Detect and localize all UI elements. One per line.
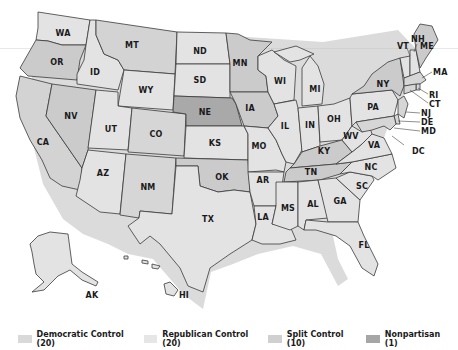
map-legend: Democratic Control (20) Republican Contr… xyxy=(18,330,458,348)
label-md: MD xyxy=(421,127,436,136)
legend-label: Nonpartisan (1) xyxy=(385,330,449,348)
legend-item-split: Split Control (10) xyxy=(268,330,357,348)
label-in: IN xyxy=(305,121,315,130)
leader-md xyxy=(394,128,420,131)
label-me: ME xyxy=(420,42,434,51)
label-ks: KS xyxy=(209,139,221,148)
label-mt: MT xyxy=(125,41,139,50)
label-ga: GA xyxy=(333,197,346,206)
us-map: WA OR CA ID NV MT WY UT CO AZ NM ND SD N… xyxy=(0,0,458,315)
leader-ma xyxy=(422,72,432,78)
leader-ri xyxy=(418,88,428,94)
label-ne: NE xyxy=(199,108,212,117)
label-tx: TX xyxy=(202,215,214,224)
label-sc: SC xyxy=(356,182,368,191)
label-ny: NY xyxy=(377,80,390,89)
label-nc: NC xyxy=(365,163,378,172)
legend-label: Split Control (10) xyxy=(287,330,357,348)
label-ok: OK xyxy=(215,173,228,182)
legend-item-democratic: Democratic Control (20) xyxy=(18,330,135,348)
us-map-svg xyxy=(0,0,458,315)
label-oh: OH xyxy=(327,115,341,124)
label-nv: NV xyxy=(64,112,77,121)
label-nm: NM xyxy=(140,183,155,192)
label-al: AL xyxy=(307,200,319,209)
label-sd: SD xyxy=(194,76,207,85)
label-il: IL xyxy=(281,122,289,131)
republican-swatch xyxy=(144,335,158,343)
democratic-swatch xyxy=(18,335,32,343)
state-CT[interactable] xyxy=(404,84,416,94)
label-fl: FL xyxy=(359,241,370,250)
legend-label: Republican Control (20) xyxy=(162,330,259,348)
state-AK[interactable] xyxy=(30,232,98,292)
legend-item-nonpartisan: Nonpartisan (1) xyxy=(366,330,449,348)
label-az: AZ xyxy=(97,169,109,178)
nonpartisan-swatch xyxy=(366,335,380,343)
label-wy: WY xyxy=(138,86,153,95)
label-ma: MA xyxy=(433,68,448,77)
leader-de xyxy=(398,121,420,122)
legend-label: Democratic Control (20) xyxy=(37,330,135,348)
label-ak: AK xyxy=(86,291,99,300)
label-hi: HI xyxy=(179,291,189,300)
label-mi: MI xyxy=(309,85,320,94)
legend-item-republican: Republican Control (20) xyxy=(144,330,260,348)
label-de: DE xyxy=(421,118,434,127)
label-mn: MN xyxy=(232,59,247,68)
label-nj: NJ xyxy=(421,109,431,118)
label-vt: VT xyxy=(397,42,409,51)
label-ri: RI xyxy=(429,91,439,100)
label-ky: KY xyxy=(318,147,330,156)
label-tn: TN xyxy=(305,168,318,177)
leader-ct xyxy=(410,90,428,103)
label-dc: DC xyxy=(412,147,425,156)
label-id: ID xyxy=(90,68,100,77)
state-NJ[interactable] xyxy=(398,96,408,118)
label-pa: PA xyxy=(367,103,379,112)
label-nd: ND xyxy=(193,47,207,56)
label-ms: MS xyxy=(281,204,295,213)
label-wv: WV xyxy=(343,132,358,141)
label-ct: CT xyxy=(429,100,441,109)
label-mo: MO xyxy=(251,142,266,151)
label-or: OR xyxy=(50,58,63,67)
label-co: CO xyxy=(149,130,162,139)
label-ar: AR xyxy=(257,176,270,185)
leader-dc xyxy=(392,136,404,145)
label-wi: WI xyxy=(274,77,286,86)
split-swatch xyxy=(268,335,282,343)
label-wa: WA xyxy=(55,29,70,38)
label-la: LA xyxy=(257,213,269,222)
label-ut: UT xyxy=(105,125,117,134)
leader-nj xyxy=(406,112,420,113)
label-ca: CA xyxy=(37,138,49,147)
label-va: VA xyxy=(368,141,380,150)
label-ia: IA xyxy=(245,104,255,113)
